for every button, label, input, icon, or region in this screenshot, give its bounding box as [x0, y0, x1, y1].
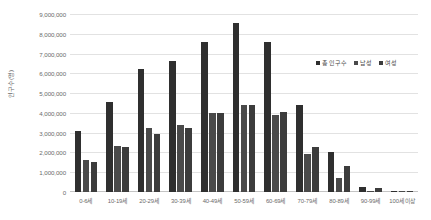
- bar: [249, 105, 256, 192]
- bar-group: [70, 14, 102, 192]
- y-axis-tick-label: 4,000,000: [4, 109, 66, 116]
- bar: [304, 154, 311, 192]
- bar-group: [386, 14, 418, 192]
- legend-swatch-icon: [316, 61, 320, 65]
- y-axis-tick-label: 7,000,000: [4, 50, 66, 57]
- legend-item-label: 여성: [385, 58, 397, 67]
- x-axis-tick-label: 40-49세: [197, 196, 229, 205]
- bar: [146, 128, 153, 192]
- legend-item-label: 총 인구수: [322, 58, 347, 67]
- bar: [233, 23, 240, 192]
- legend-swatch-icon: [354, 61, 358, 65]
- bar: [91, 162, 98, 192]
- bar: [75, 131, 82, 192]
- bar: [138, 69, 145, 192]
- y-axis-tick-label: 1,000,000: [4, 169, 66, 176]
- bar: [272, 115, 279, 192]
- bar: [280, 112, 287, 192]
- bar: [241, 105, 248, 192]
- x-axis-tick-label: 0-6세: [70, 196, 102, 205]
- bar: [106, 102, 113, 192]
- bar: [312, 147, 319, 192]
- bar-group: [291, 14, 323, 192]
- x-axis-tick-label: 60-69세: [260, 196, 292, 205]
- x-axis-tick-label: 90-99세: [355, 196, 387, 205]
- bar: [328, 152, 335, 192]
- bar: [114, 146, 121, 192]
- y-axis-title: 인구수(명): [6, 70, 15, 98]
- bar-group: [133, 14, 165, 192]
- x-axis-tick-label: 10-19세: [102, 196, 134, 205]
- chart-legend: 총 인구수남성여성: [316, 58, 397, 67]
- x-axis-tick-label: 100세 이상: [386, 196, 418, 205]
- y-axis-tick-label: 2,000,000: [4, 149, 66, 156]
- bar: [375, 188, 382, 192]
- bar-group: [228, 14, 260, 192]
- bar: [367, 191, 374, 192]
- bar-group: [355, 14, 387, 192]
- y-axis: 9,000,0008,000,0007,000,0006,000,0005,00…: [0, 14, 66, 192]
- x-axis-tick-label: 30-39세: [165, 196, 197, 205]
- bar: [336, 178, 343, 192]
- bar-groups: [70, 14, 418, 192]
- bar: [359, 187, 366, 192]
- bar-group: [323, 14, 355, 192]
- bar: [344, 166, 351, 192]
- population-by-age-bar-chart: 9,000,0008,000,0007,000,0006,000,0005,00…: [0, 0, 431, 220]
- bar: [122, 147, 129, 192]
- bar: [209, 113, 216, 192]
- legend-item-label: 남성: [360, 58, 372, 67]
- bar-group: [260, 14, 292, 192]
- legend-item[interactable]: 남성: [354, 58, 372, 67]
- bar: [201, 42, 208, 192]
- y-axis-tick-label: 8,000,000: [4, 30, 66, 37]
- y-axis-tick-label: 3,000,000: [4, 129, 66, 136]
- bar: [407, 191, 414, 192]
- bar: [399, 191, 406, 192]
- x-axis-labels: 0-6세10-19세20-29세30-39세40-49세50-59세60-69세…: [70, 196, 418, 205]
- y-axis-tick-label: 9,000,000: [4, 11, 66, 18]
- bar: [217, 113, 224, 192]
- bar: [169, 61, 176, 192]
- legend-item[interactable]: 총 인구수: [316, 58, 347, 67]
- x-axis-tick-label: 80-89세: [323, 196, 355, 205]
- y-axis-tick-label: 0: [4, 189, 66, 196]
- bar: [296, 105, 303, 192]
- bar: [83, 160, 90, 192]
- bar: [264, 42, 271, 192]
- legend-item[interactable]: 여성: [379, 58, 397, 67]
- x-axis-tick-label: 50-59세: [228, 196, 260, 205]
- bar-group: [102, 14, 134, 192]
- bar: [185, 128, 192, 192]
- bar: [391, 191, 398, 192]
- bar-group: [197, 14, 229, 192]
- legend-swatch-icon: [379, 61, 383, 65]
- x-axis-tick-label: 20-29세: [133, 196, 165, 205]
- bar: [177, 125, 184, 192]
- bar-group: [165, 14, 197, 192]
- x-axis-tick-label: 70-79세: [291, 196, 323, 205]
- bar: [154, 134, 161, 192]
